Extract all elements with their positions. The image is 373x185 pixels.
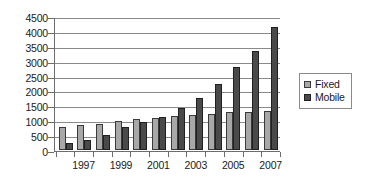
x-axis-tick-mark xyxy=(243,152,244,157)
x-axis-tick-mark xyxy=(186,152,187,157)
bar-mobile-1997 xyxy=(84,140,91,150)
bar-group xyxy=(168,18,187,150)
bar-fixed-1996 xyxy=(59,127,66,150)
x-axis-tick-label: 1999 xyxy=(101,160,141,171)
bar-fixed-2005 xyxy=(226,112,233,149)
bar-group xyxy=(243,18,262,150)
bar-mobile-2001 xyxy=(159,117,166,149)
legend-item-label: Fixed xyxy=(315,79,340,90)
bar-fixed-1999 xyxy=(115,121,122,149)
bar-group xyxy=(206,18,225,150)
bar-fixed-1997 xyxy=(77,125,84,149)
y-axis-tick-label: 3500 xyxy=(2,43,48,54)
x-axis-tick-mark xyxy=(280,152,281,157)
bar-group xyxy=(187,18,206,150)
x-axis-tick-mark xyxy=(112,152,113,157)
bar-mobile-2004 xyxy=(215,84,222,150)
x-axis-tick-label: 2007 xyxy=(251,160,291,171)
bar-group xyxy=(112,18,131,150)
bar-fixed-2003 xyxy=(189,115,196,150)
x-axis-tick-label: 2005 xyxy=(213,160,253,171)
x-axis-tick-mark xyxy=(205,152,206,157)
x-axis-tick-mark xyxy=(168,152,169,157)
y-axis-tick-mark xyxy=(48,152,54,153)
bar-fixed-2004 xyxy=(208,114,215,149)
bar-chart: 450040003500300025002000150010005000 199… xyxy=(0,0,373,185)
x-axis-tick-mark xyxy=(74,152,75,157)
bar-mobile-1996 xyxy=(66,143,73,149)
bar-mobile-1999 xyxy=(122,127,129,149)
y-axis-tick-label: 500 xyxy=(2,132,48,143)
chart-legend: Fixed Mobile xyxy=(299,73,352,109)
y-axis-tick-label: 3000 xyxy=(2,58,48,69)
mobile-swatch-icon xyxy=(304,94,311,101)
plot-frame xyxy=(54,18,280,152)
fixed-swatch-icon xyxy=(304,81,311,88)
bar-group xyxy=(261,18,280,150)
legend-item-label: Mobile xyxy=(315,92,345,103)
bar-mobile-2007 xyxy=(271,27,278,149)
y-axis-tick-label: 4000 xyxy=(2,28,48,39)
bar-mobile-2006 xyxy=(252,51,259,150)
bar-mobile-2005 xyxy=(233,67,240,150)
y-axis-tick-label: 0 xyxy=(2,147,48,158)
x-axis-tick-label: 2001 xyxy=(138,160,178,171)
plot-area xyxy=(54,18,280,152)
y-axis-tick-label: 2500 xyxy=(2,73,48,84)
x-axis-tick-label: 2003 xyxy=(176,160,216,171)
bar-mobile-2002 xyxy=(178,108,185,150)
y-axis-tick-label: 2000 xyxy=(2,87,48,98)
x-axis-tick-mark xyxy=(130,152,131,157)
legend-item-fixed: Fixed xyxy=(304,78,345,91)
x-axis-tick-mark xyxy=(56,152,57,157)
bar-group xyxy=(224,18,243,150)
x-axis-tick-mark xyxy=(149,152,150,157)
bar-group xyxy=(94,18,113,150)
bar-group xyxy=(150,18,169,150)
x-axis-tick-label: 1997 xyxy=(64,160,104,171)
y-axis-tick-label: 1500 xyxy=(2,102,48,113)
x-axis-tick-mark xyxy=(224,152,225,157)
bar-fixed-2000 xyxy=(133,119,140,149)
bars-layer xyxy=(57,18,281,150)
bar-fixed-2002 xyxy=(171,116,178,149)
y-axis-tick-label: 4500 xyxy=(2,13,48,24)
y-axis-tick-label: 1000 xyxy=(2,117,48,128)
bar-group xyxy=(75,18,94,150)
x-axis-tick-mark xyxy=(93,152,94,157)
bar-mobile-1998 xyxy=(103,135,110,150)
bar-fixed-2006 xyxy=(245,112,252,149)
bar-mobile-2003 xyxy=(196,98,203,149)
bar-fixed-2001 xyxy=(152,118,159,150)
bar-group xyxy=(131,18,150,150)
x-axis-tick-mark xyxy=(261,152,262,157)
bar-fixed-2007 xyxy=(264,111,271,149)
bar-group xyxy=(57,18,76,150)
bar-fixed-1998 xyxy=(96,124,103,150)
legend-item-mobile: Mobile xyxy=(304,91,345,104)
bar-mobile-2000 xyxy=(140,122,147,150)
